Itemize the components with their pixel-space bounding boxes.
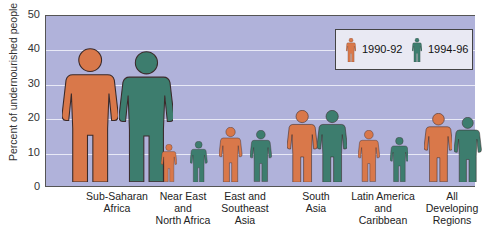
legend-icon-1990-92 (346, 38, 356, 66)
y-axis-label: Percent of undernourished people (7, 31, 19, 161)
y-tick: 0 (20, 180, 40, 192)
legend: 1990-92 1994-96 (335, 29, 473, 70)
y-tick: 50 (20, 8, 40, 20)
figure-1994-96 (190, 141, 207, 186)
x-label: Sub-Saharan Africa (86, 190, 148, 214)
figure-1994-96 (317, 110, 347, 186)
legend-icon-1994-96 (412, 38, 422, 66)
legend-label-1990-92: 1990-92 (362, 43, 402, 55)
y-tick: 20 (20, 111, 40, 123)
figure-1990-92 (62, 48, 118, 186)
figure-1994-96 (454, 117, 481, 186)
x-label: South Asia (302, 190, 329, 214)
figure-1994-96 (390, 137, 409, 186)
y-tick: 10 (20, 146, 40, 158)
figure-1994-96 (250, 130, 272, 186)
legend-label-1994-96: 1994-96 (428, 43, 468, 55)
figure-1990-92 (161, 144, 177, 186)
x-label: Near East and North Africa (156, 190, 211, 226)
figure-1990-92 (424, 113, 453, 186)
figure-1990-92 (219, 127, 242, 186)
figure-1990-92 (287, 110, 317, 186)
x-label: Latin America and Caribbean (351, 190, 415, 226)
figure-1990-92 (358, 130, 380, 186)
y-tick: 40 (20, 42, 40, 54)
y-tick: 30 (20, 77, 40, 89)
x-label: All Developing Regions (426, 190, 479, 226)
x-label: East and Southeast Asia (221, 190, 268, 226)
